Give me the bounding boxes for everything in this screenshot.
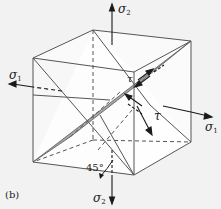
sigma1-right-label: σ1 (205, 121, 218, 135)
panel-label: (b) (5, 190, 19, 200)
cube-drawing (0, 0, 221, 209)
angle-label: 45° (86, 163, 104, 173)
tau-upper-label: τ (127, 74, 133, 84)
sigma2-top-label: σ2 (118, 3, 131, 17)
stress-cube-diagram: σ2 σ1 σ1 σ2 τ τ 45° (b) (0, 0, 221, 209)
sigma1-left-label: σ1 (9, 69, 22, 83)
tau-lower-label: τ (154, 110, 161, 122)
sigma2-bottom-label: σ2 (93, 192, 106, 206)
